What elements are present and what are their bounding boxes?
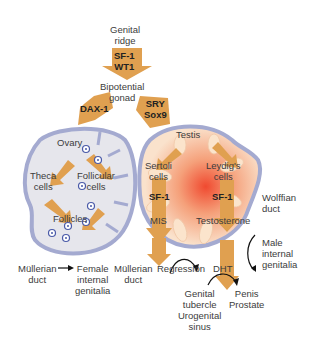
label-genital-tubercle: Genital tubercle Urogenital sinus xyxy=(178,288,221,332)
wolffian-line2: duct xyxy=(262,203,296,214)
sertoli-line1: Sertoli xyxy=(145,160,172,171)
follicular-line1: Follicular xyxy=(77,170,115,181)
label-regression: Regression xyxy=(157,263,205,274)
male-line1: Male xyxy=(262,237,297,248)
label-genital-ridge: Genital ridge xyxy=(110,24,140,46)
leydig-line2: cells xyxy=(206,171,241,182)
female-line1: Female xyxy=(75,263,110,274)
female-line3: genitalia xyxy=(75,285,110,296)
label-sertoli-cells: Sertoli cells xyxy=(145,160,172,182)
label-penis-prostate: Penis Prostate xyxy=(229,288,264,310)
female-line2: internal xyxy=(75,274,110,285)
genital-ridge-line2: ridge xyxy=(110,35,140,46)
label-mullerian-duct-male: Müllerian duct xyxy=(114,263,153,285)
bipotential-line2: gonad xyxy=(100,92,144,103)
gt-line1: Genital xyxy=(178,288,221,299)
theca-line1: Theca xyxy=(30,170,56,181)
sertoli-line2: cells xyxy=(145,171,172,182)
mullerian-m-line2: duct xyxy=(114,274,153,285)
wolffian-line1: Wolffian xyxy=(262,192,296,203)
prostate-text: Prostate xyxy=(229,299,264,310)
label-female-internal-genitalia: Female internal genitalia xyxy=(75,263,110,296)
label-follicular-cells: Follicular cells xyxy=(77,170,115,192)
mullerian-f-line2: duct xyxy=(18,274,57,285)
male-line3: genitalia xyxy=(262,259,297,270)
label-male-internal-genitalia: Male internal genitalia xyxy=(262,237,297,270)
theca-line2: cells xyxy=(30,181,56,192)
label-bipotential-gonad: Bipotential gonad xyxy=(100,81,144,103)
label-theca-cells: Theca cells xyxy=(30,170,56,192)
label-mis: MIS xyxy=(150,215,167,226)
male-line2: internal xyxy=(262,248,297,259)
label-wolffian-duct: Wolffian duct xyxy=(262,192,296,214)
follicular-line2: cells xyxy=(77,181,115,192)
label-sry-sox9: SRY Sox9 xyxy=(144,98,167,120)
leydig-line1: Leydig's xyxy=(206,160,241,171)
arrow-wolffian-male xyxy=(248,235,255,270)
sf1-text: SF-1 xyxy=(114,50,135,61)
label-mullerian-duct-female: Müllerian duct xyxy=(18,263,57,285)
mullerian-m-line1: Müllerian xyxy=(114,263,153,274)
genital-ridge-line1: Genital xyxy=(110,24,140,35)
label-testis: Testis xyxy=(176,129,200,140)
label-ovary: Ovary xyxy=(57,137,82,148)
sry-text: SRY xyxy=(144,98,167,109)
sox9-text: Sox9 xyxy=(144,109,167,120)
penis-text: Penis xyxy=(229,288,264,299)
label-follicles: Follicles xyxy=(53,213,87,224)
label-testosterone: Testosterone xyxy=(196,215,250,226)
wt1-text: WT1 xyxy=(114,61,135,72)
label-leydig-cells: Leydig's cells xyxy=(206,160,241,182)
gt-line3: Urogenital xyxy=(178,310,221,321)
mullerian-f-line1: Müllerian xyxy=(18,263,57,274)
bipotential-line1: Bipotential xyxy=(100,81,144,92)
label-sf1-wt1: SF-1 WT1 xyxy=(114,50,135,72)
label-dax1: DAX-1 xyxy=(80,103,109,114)
gt-line4: sinus xyxy=(178,321,221,332)
gt-line2: tubercle xyxy=(178,299,221,310)
label-sf1-leydig: SF-1 xyxy=(212,191,233,202)
label-sf1-sertoli: SF-1 xyxy=(149,191,170,202)
label-dht: DHT xyxy=(213,263,233,274)
